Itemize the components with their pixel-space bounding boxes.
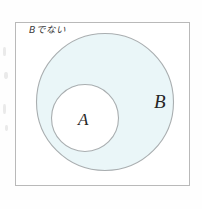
venn-diagram-figure: Bでない B A — [0, 0, 202, 209]
set-a-circle — [52, 85, 119, 152]
diagram-canvas — [0, 0, 202, 209]
